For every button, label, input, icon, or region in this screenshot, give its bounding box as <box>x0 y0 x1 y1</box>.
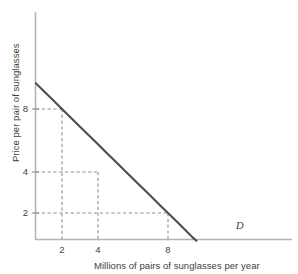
demand-curve-line <box>36 83 197 241</box>
x-axis-title: Millions of pairs of sunglasses per year <box>94 261 260 271</box>
demand-curve-chart: Price per pair of sunglasses Millions of… <box>0 0 298 274</box>
y-tick-label-2: 2 <box>14 208 28 218</box>
x-tick-label-4: 4 <box>91 245 105 255</box>
x-tick-label-2: 2 <box>55 245 69 255</box>
demand-curve-label: D <box>236 221 244 232</box>
y-tick-label-4: 4 <box>14 167 28 177</box>
y-tick-label-8: 8 <box>14 104 28 114</box>
chart-plot-area <box>0 0 298 274</box>
x-tick-label-8: 8 <box>161 245 175 255</box>
y-axis-title: Price per pair of sunglasses <box>11 28 21 178</box>
